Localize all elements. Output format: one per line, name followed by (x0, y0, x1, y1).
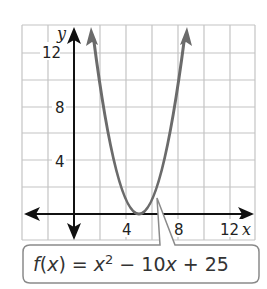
parabola-curve (94, 38, 185, 214)
tick-y-4: 4 (55, 153, 65, 171)
tick-x-8: 8 (174, 221, 184, 239)
x-axis-label: x (242, 220, 251, 239)
tick-y-12: 12 (42, 44, 61, 62)
tick-x-12: 12 (220, 221, 239, 239)
curve-left-arrow-icon (86, 27, 98, 46)
parabola-chart: 12 8 4 y 4 8 12 x f(x) = x2 − 10x + 25 (0, 0, 267, 289)
tick-x-4: 4 (122, 221, 132, 239)
y-axis-label: y (56, 24, 67, 43)
tick-y-8: 8 (55, 99, 65, 117)
equation-text: f(x) = x2 − 10x + 25 (33, 252, 229, 275)
curve-right-arrow-icon (180, 27, 192, 46)
